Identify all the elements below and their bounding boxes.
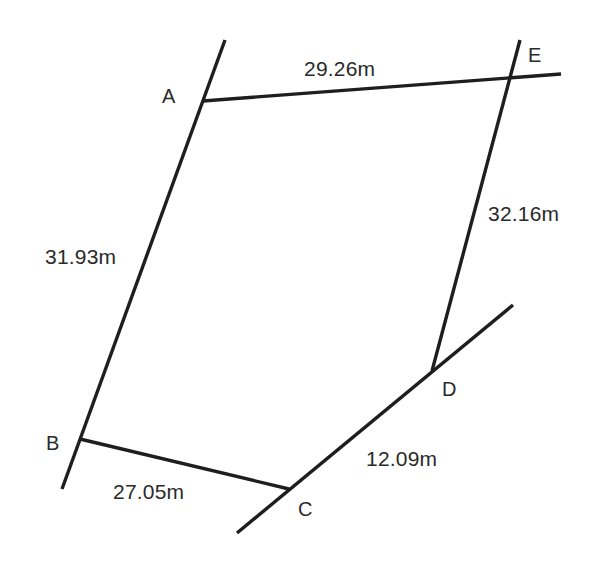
parcel-diagram: [0, 0, 608, 571]
point-label-d: D: [442, 379, 456, 399]
point-label-a: A: [162, 86, 175, 106]
length-label-de: 32.16m: [488, 203, 559, 224]
point-label-e: E: [528, 45, 541, 65]
line-b-c: [80, 439, 289, 489]
length-label-cd: 12.09m: [366, 448, 437, 469]
length-label-ab: 31.93m: [45, 246, 116, 267]
point-label-c: C: [298, 499, 312, 519]
length-label-ae: 29.26m: [304, 58, 375, 79]
point-label-b: B: [46, 433, 59, 453]
length-label-bc: 27.05m: [113, 481, 184, 502]
line-c-d-extended: [237, 305, 513, 533]
